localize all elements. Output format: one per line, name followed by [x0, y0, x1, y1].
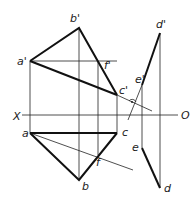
label-e-prime: e' [135, 73, 145, 86]
label-o: O [181, 109, 190, 122]
label-c-prime: c' [119, 84, 128, 97]
label-a: a [22, 127, 29, 140]
label-c: c [122, 126, 128, 139]
label-d: d [164, 182, 172, 195]
label-f: f [96, 156, 102, 169]
label-e: e [132, 141, 139, 154]
diagram-canvas: b' a' f' c' d' e' X O a c e f b d [0, 0, 196, 203]
label-x: X [12, 110, 21, 123]
projection-diagram: b' a' f' c' d' e' X O a c e f b d [0, 0, 196, 203]
projection-lines [22, 28, 178, 188]
label-d-prime: d' [156, 18, 166, 31]
label-a-prime: a' [17, 55, 27, 68]
label-b: b [82, 180, 89, 193]
object-lines [30, 28, 160, 188]
label-b-prime: b' [70, 12, 80, 25]
label-f-prime: f' [104, 59, 111, 72]
